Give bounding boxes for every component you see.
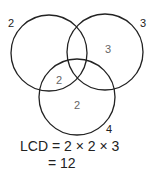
equation-line-2: = 12 xyxy=(48,156,76,170)
circle-bottom-label: 4 xyxy=(106,124,112,135)
circle-bottom xyxy=(39,59,115,135)
circle-left xyxy=(11,15,87,91)
circle-right-label: 3 xyxy=(140,18,146,29)
region-right-only: 3 xyxy=(105,44,111,55)
region-bottom-only: 2 xyxy=(74,100,80,111)
circle-left-label: 2 xyxy=(8,18,14,29)
equation-line-1: LCD = 2 × 2 × 3 xyxy=(20,139,119,153)
region-left-bottom-overlap: 2 xyxy=(56,75,62,86)
